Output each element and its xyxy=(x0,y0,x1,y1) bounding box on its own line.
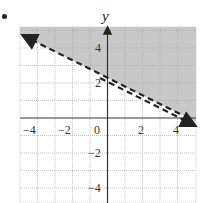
x-tick-label: −4 xyxy=(23,123,36,137)
x-tick-label: 0 xyxy=(94,123,100,137)
y-tick-label: 4 xyxy=(95,41,101,55)
y-tick-label: −4 xyxy=(88,181,101,195)
x-tick-label: 4 xyxy=(173,123,179,137)
inequality-graph: y −4 −2 0 2 4 4 2 −2 −4 xyxy=(0,0,200,203)
x-tick-label: 2 xyxy=(138,123,144,137)
y-axis-label: y xyxy=(100,8,109,24)
y-tick-label: 2 xyxy=(95,76,101,90)
x-tick-label: −2 xyxy=(58,123,71,137)
y-tick-label: −2 xyxy=(88,146,101,160)
